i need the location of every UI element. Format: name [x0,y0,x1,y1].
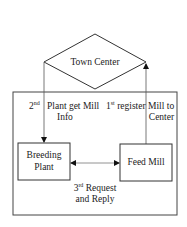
breeding-plant-label: Breeding Plant [18,149,70,173]
step1-text-left: register [117,101,146,111]
step1-right-label: Mill to Center [148,101,174,123]
town-center-text: Town Center [70,57,119,67]
feed-mill-label: Feed Mill [120,156,172,168]
step3-ordinal-sup: rd [78,182,83,188]
step1-line2: Center [148,112,174,123]
step3-line2: and Reply [62,194,128,205]
step2-label: Plant get Mill Info [47,101,99,123]
step2-line2: Info [47,112,99,123]
breeding-plant-line2: Plant [18,161,70,173]
step2-line1: Plant get Mill [47,101,99,112]
step2-ordinal: 2nd [29,101,40,112]
step3-label: 3rd Request and Reply [62,183,128,205]
step1-line1: Mill to [148,101,174,112]
step1-left-label: 1st register [106,101,146,112]
step2-ordinal-sup: nd [34,100,40,106]
feed-mill-text: Feed Mill [127,157,164,167]
breeding-plant-line1: Breeding [18,149,70,161]
step1-ordinal-sup: st [111,100,115,106]
step3-line1: Request [86,183,117,193]
town-center-label: Town Center [60,56,130,68]
